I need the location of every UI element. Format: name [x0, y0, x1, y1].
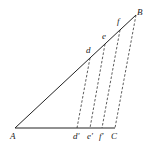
label-e-prime: e' — [87, 131, 94, 141]
label-d: d — [86, 45, 91, 55]
label-f: f — [117, 16, 121, 26]
label-e: e — [102, 31, 106, 41]
label-B: B — [137, 7, 143, 17]
label-A: A — [9, 131, 16, 141]
label-f-prime: f' — [99, 131, 105, 141]
label-d-prime: d' — [73, 131, 81, 141]
projection-diagram: A B C d e f d' e' f' — [0, 0, 151, 146]
dashed-line-e-eprime — [90, 44, 105, 128]
label-C: C — [111, 131, 118, 141]
line-AB — [15, 15, 136, 128]
